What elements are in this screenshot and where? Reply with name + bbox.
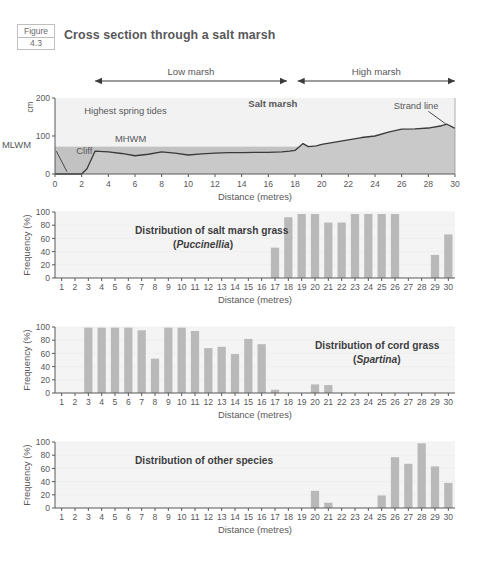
x-tick-label: 4: [99, 282, 104, 292]
x-tick-label: 10: [177, 512, 187, 522]
x-tick-label: 24: [370, 179, 380, 189]
marsh-span-bar: Low marshHigh marsh: [0, 60, 480, 90]
x-tick-label: 24: [364, 282, 374, 292]
x-tick-label: 28: [417, 512, 427, 522]
x-tick-label: 14: [237, 179, 247, 189]
bar-chart-other-species: 0204060801001234567891011121314151617181…: [0, 430, 480, 545]
marsh-span-svg: Low marshHigh marsh: [0, 60, 480, 90]
x-tick-label: 22: [337, 282, 347, 292]
y-tick-label: 20: [40, 375, 50, 385]
x-tick-label: 12: [204, 397, 214, 407]
x-tick-label: 24: [364, 397, 374, 407]
arrow-head-left: [298, 78, 305, 84]
figure-number-box: Figure 4.3: [17, 24, 55, 50]
x-tick-label: 29: [430, 397, 440, 407]
x-tick-label: 11: [191, 512, 200, 522]
x-tick-label: 3: [86, 512, 91, 522]
span-label-low-marsh: Low marsh: [168, 66, 215, 77]
bar: [378, 495, 386, 508]
x-tick-label: 13: [217, 512, 227, 522]
y-tick-label: 80: [40, 450, 50, 460]
bar: [324, 385, 332, 393]
x-tick-label: 25: [377, 397, 387, 407]
bar-chart-puccinellia: 0204060801001234567891011121314151617181…: [0, 200, 480, 310]
y-tick-label: 200: [36, 93, 51, 103]
x-tick-label: 6: [126, 282, 131, 292]
x-tick-label: 11: [191, 397, 200, 407]
x-tick-label: 25: [377, 282, 387, 292]
x-tick-label: 23: [350, 397, 360, 407]
x-tick-label: 6: [126, 397, 131, 407]
x-tick-label: 5: [113, 282, 118, 292]
x-tick-label: 22: [337, 397, 347, 407]
x-tick-label: 7: [139, 512, 144, 522]
x-tick-label: 16: [257, 512, 267, 522]
x-tick-label: 7: [139, 282, 144, 292]
x-tick-label: 4: [106, 179, 111, 189]
x-tick-label: 15: [244, 282, 254, 292]
y-axis-title: Frequency (%): [21, 329, 32, 390]
arrow-head-left: [95, 78, 102, 84]
y-tick-label: 20: [40, 260, 50, 270]
x-tick-label: 26: [390, 512, 400, 522]
x-tick-label: 10: [177, 397, 187, 407]
annotation-strand-line: Strand line: [394, 100, 439, 111]
x-tick-label: 26: [390, 397, 400, 407]
x-tick-label: 3: [86, 282, 91, 292]
bar: [111, 328, 119, 393]
y-tick-label: 0: [45, 169, 50, 179]
x-tick-label: 28: [417, 282, 427, 292]
x-tick-label: 23: [350, 512, 360, 522]
y-tick-label: 80: [40, 335, 50, 345]
y-tick-label: 40: [40, 362, 50, 372]
x-tick-label: 14: [230, 397, 240, 407]
x-tick-label: 8: [153, 282, 158, 292]
bar: [378, 214, 386, 278]
bar: [258, 344, 266, 393]
y-tick-label: 100: [36, 131, 51, 141]
x-tick-label: 27: [404, 282, 414, 292]
x-tick-label: 13: [217, 397, 227, 407]
chart-title-line1: Distribution of cord grass: [315, 340, 440, 351]
x-tick-label: 5: [113, 397, 118, 407]
chart-title-line1: Distribution of salt marsh grass: [135, 225, 289, 236]
bar: [444, 483, 452, 508]
bar: [431, 466, 439, 508]
annotation-salt-marsh: Salt marsh: [248, 98, 297, 109]
y-tick-label: 20: [40, 490, 50, 500]
x-tick-label: 8: [153, 512, 158, 522]
y-tick-label: 40: [40, 247, 50, 257]
x-tick-label: 4: [99, 397, 104, 407]
cross-section-panel: 0100200024681012141618202224262830Distan…: [0, 88, 480, 206]
x-tick-label: 9: [166, 282, 171, 292]
y-tick-label: 100: [36, 322, 51, 332]
bar: [298, 214, 306, 278]
bar: [244, 339, 252, 393]
x-tick-label: 12: [204, 512, 214, 522]
x-tick-label: 10: [184, 179, 194, 189]
arrow-head-right: [280, 78, 287, 84]
x-tick-label: 1: [59, 282, 64, 292]
x-tick-label: 17: [270, 512, 280, 522]
x-tick-label: 0: [53, 179, 58, 189]
x-tick-label: 2: [73, 282, 78, 292]
bar: [164, 328, 172, 393]
x-tick-label: 20: [310, 282, 320, 292]
x-tick-label: 15: [244, 512, 254, 522]
x-tick-label: 13: [217, 282, 227, 292]
x-tick-label: 25: [377, 512, 387, 522]
y-tick-label: 100: [36, 207, 51, 217]
x-tick-label: 1: [59, 512, 64, 522]
x-tick-label: 21: [324, 512, 334, 522]
x-tick-label: 14: [230, 282, 240, 292]
chart-title-line1: Distribution of other species: [135, 455, 273, 466]
bar: [84, 328, 92, 393]
y-tick-label: 100: [36, 437, 51, 447]
x-tick-label: 28: [417, 397, 427, 407]
annotation-highest-spring-tides: Highest spring tides: [84, 105, 167, 116]
chart-panel-spartina: 0204060801001234567891011121314151617181…: [0, 315, 480, 425]
x-tick-label: 16: [264, 179, 274, 189]
y-tick-label: 0: [45, 503, 50, 513]
figure-page: Figure 4.3 Cross section through a salt …: [0, 0, 480, 568]
x-tick-label: 29: [430, 282, 440, 292]
